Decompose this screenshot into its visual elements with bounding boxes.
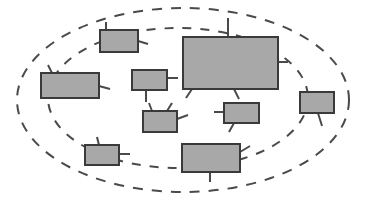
connector-left-right [99,86,110,89]
connector-right-mid-down [229,123,234,132]
connector-center-up-a [149,103,152,111]
connector-center-right [177,115,188,119]
connector-top-left-right [138,41,148,44]
node-bottom-center[interactable] [182,144,240,172]
diagram-canvas [0,0,366,200]
node-bottom-left-box[interactable] [85,145,119,165]
node-large-center[interactable] [183,37,278,89]
node-top-left-box[interactable] [100,30,138,52]
node-mid-left[interactable] [132,70,167,90]
diagram-svg [0,0,366,200]
node-top-left[interactable] [100,30,138,52]
node-right-mid[interactable] [224,103,259,123]
node-left[interactable] [41,73,99,98]
connector-bottom-center-right [240,146,250,152]
node-right-mid-box[interactable] [224,103,259,123]
nodes-layer [41,30,334,172]
connector-large-bottom-mid [234,89,239,99]
node-left-box[interactable] [41,73,99,98]
node-center[interactable] [143,111,177,132]
connector-far-right-down [318,113,322,126]
node-far-right-box[interactable] [300,92,334,113]
node-bottom-left[interactable] [85,145,119,165]
node-large-center-box[interactable] [183,37,278,89]
connector-center-up-b [167,103,172,111]
node-center-box[interactable] [143,111,177,132]
connector-bottom-left-up [97,137,99,145]
node-mid-left-box[interactable] [132,70,167,90]
connector-large-bottom-left [186,89,192,98]
node-far-right[interactable] [300,92,334,113]
connector-left-up [48,65,52,73]
node-bottom-center-box[interactable] [182,144,240,172]
